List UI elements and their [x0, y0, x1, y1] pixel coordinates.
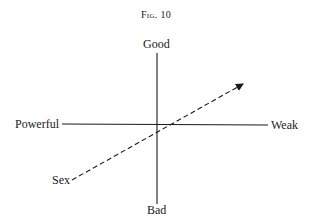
axis-label-powerful: Powerful — [15, 117, 59, 131]
vector-label-sex: Sex — [52, 173, 70, 187]
horizontal-axis-line — [62, 124, 268, 125]
axis-label-weak: Weak — [271, 118, 298, 132]
diagram-canvas — [0, 0, 312, 222]
axis-label-bad: Bad — [147, 203, 166, 217]
axis-label-good: Good — [143, 37, 170, 51]
